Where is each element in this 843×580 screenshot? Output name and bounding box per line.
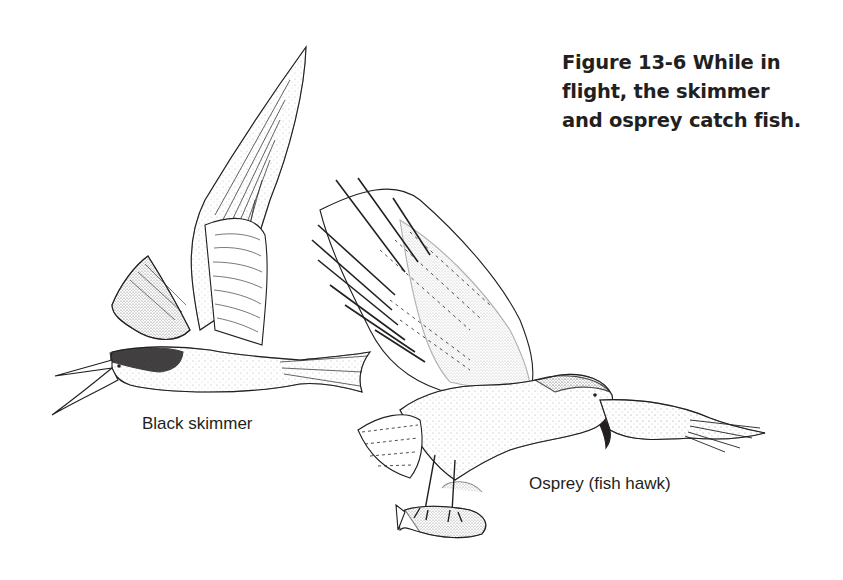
figure-caption: Figure 13-6 While in flight, the skimmer… <box>562 48 842 135</box>
caption-line-2: flight, the skimmer <box>562 77 842 106</box>
caption-line-1: Figure 13-6 While in <box>562 48 842 77</box>
black-skimmer-illustration <box>52 47 370 415</box>
black-skimmer-label: Black skimmer <box>142 414 253 434</box>
figure-13-6: Figure 13-6 While in flight, the skimmer… <box>0 0 843 580</box>
caption-line-3: and osprey catch fish. <box>562 106 842 135</box>
osprey-label: Osprey (fish hawk) <box>529 474 671 494</box>
